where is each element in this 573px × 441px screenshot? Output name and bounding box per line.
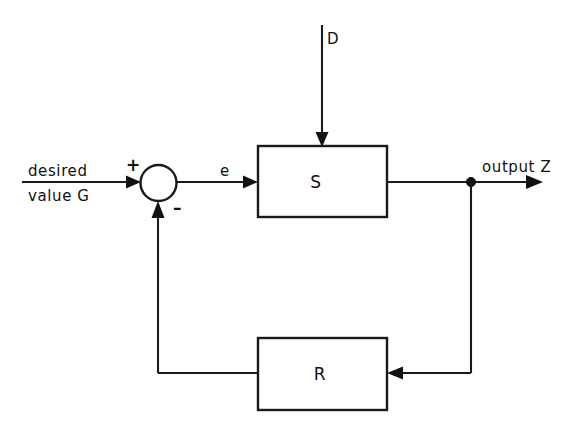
feedback-path-forward [387, 182, 471, 380]
disturbance-label: D [327, 30, 339, 48]
summing-junction-minus-sign: – [173, 198, 182, 218]
summing-junction-group [141, 165, 177, 201]
summing-junction-circle [141, 165, 177, 201]
feedback-into-junction-arrowhead [152, 201, 165, 218]
output-signal [387, 175, 543, 189]
feedback-path-return [152, 201, 259, 373]
disturbance-arrowhead [316, 132, 329, 147]
output-label: output Z [482, 158, 551, 176]
error-signal [177, 176, 259, 189]
diagram-svg: desired value G + – e D S R output Z [0, 0, 573, 441]
output-arrowhead [526, 175, 543, 189]
block-r-label: R [314, 364, 326, 384]
block-s [258, 146, 387, 217]
reference-input-arrowhead [126, 176, 141, 189]
block-s-label: S [310, 172, 321, 192]
error-signal-arrowhead [243, 176, 258, 189]
error-signal-label: e [220, 162, 229, 180]
reference-label-line1: desired [28, 162, 88, 180]
summing-junction-plus-sign: + [126, 155, 140, 175]
block-diagram-canvas: desired value G + – e D S R output Z [0, 0, 573, 441]
reference-label-line2: value G [28, 187, 90, 205]
feedback-into-r-arrowhead [387, 367, 403, 380]
